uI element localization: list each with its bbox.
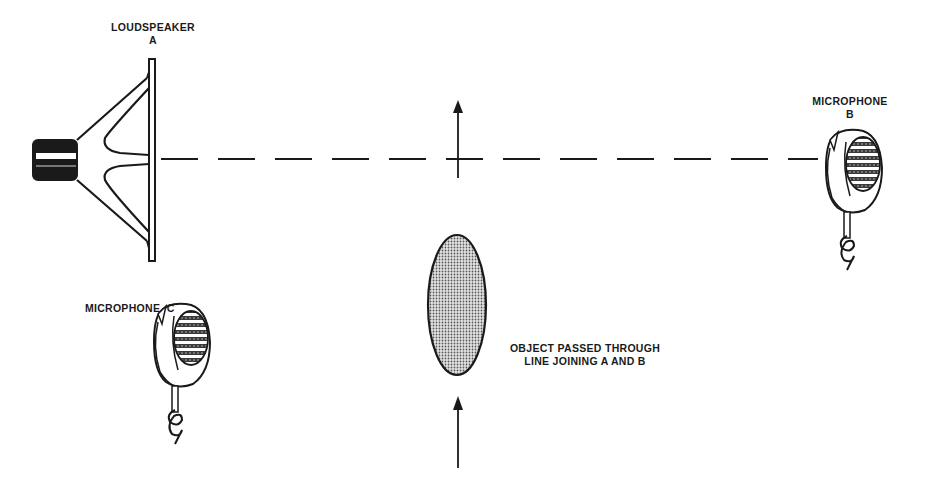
- loudspeaker-id: A: [104, 34, 202, 47]
- microphone-b-name: MICROPHONE: [800, 95, 900, 108]
- microphone-c-label: MICROPHONE C: [72, 289, 175, 328]
- object-ellipse: [428, 235, 486, 375]
- arrow-up-icon: [453, 396, 463, 468]
- microphone-b-id: B: [800, 108, 900, 121]
- microphone-icon: [826, 130, 882, 270]
- loudspeaker-icon: [33, 59, 155, 261]
- object-label: OBJECT PASSED THROUGH LINE JOINING A AND…: [500, 342, 670, 368]
- arrow-up-icon: [453, 100, 463, 178]
- loudspeaker-label: LOUDSPEAKER A: [104, 21, 202, 47]
- microphone-b-label: MICROPHONE B: [800, 95, 900, 121]
- loudspeaker-name: LOUDSPEAKER: [104, 21, 202, 34]
- diagram-canvas: LOUDSPEAKER A MICROPHONE B MICROPHONE C …: [0, 0, 932, 479]
- object-label-line2: LINE JOINING A AND B: [500, 355, 670, 368]
- object-label-line1: OBJECT PASSED THROUGH: [500, 342, 670, 355]
